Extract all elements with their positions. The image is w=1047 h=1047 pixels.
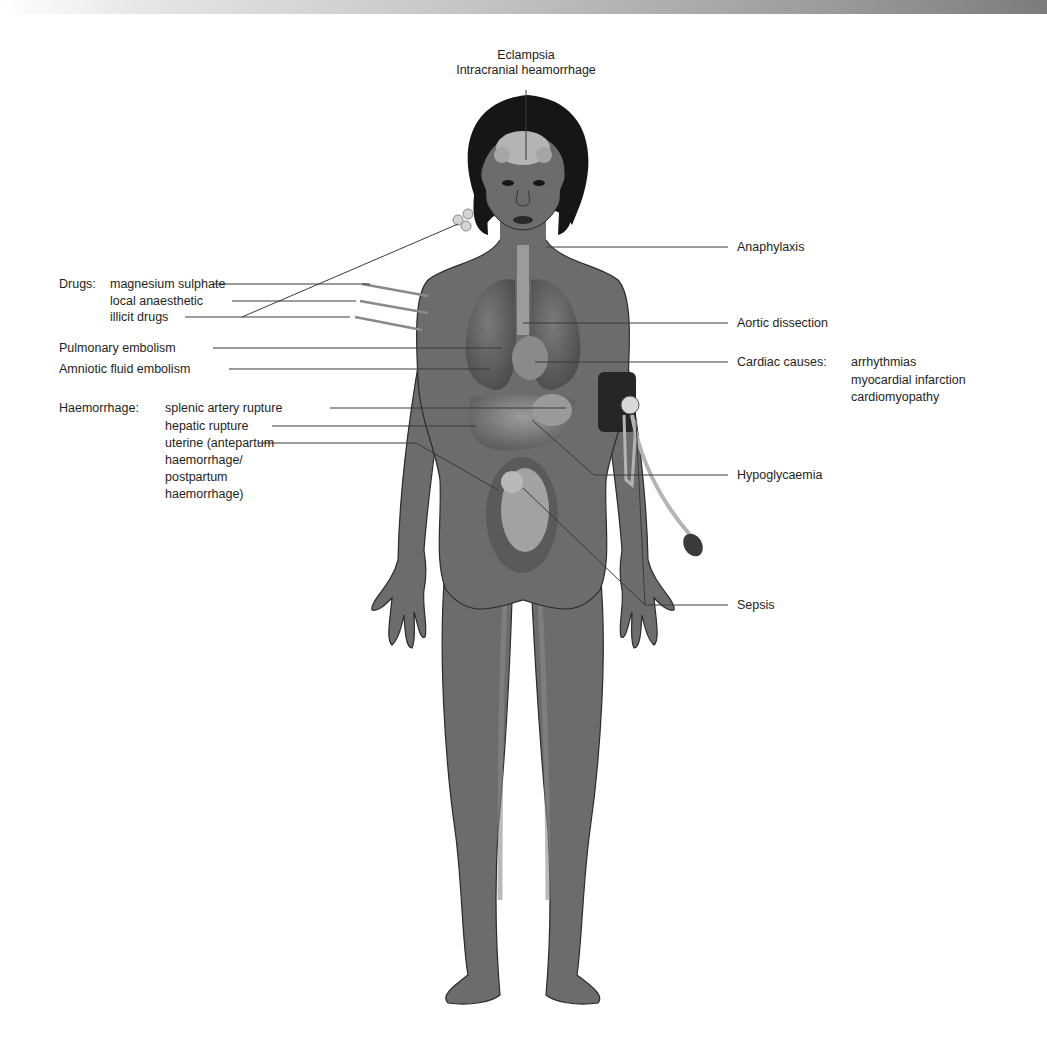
label-cardiomyopathy: cardiomyopathy — [851, 390, 939, 405]
label-amniotic-fluid-embolism: Amniotic fluid embolism — [59, 362, 190, 377]
label-pulmonary-embolism: Pulmonary embolism — [59, 341, 176, 356]
trachea — [517, 245, 529, 335]
label-eclampsia: Eclampsia — [426, 48, 626, 63]
label-cardiac-heading: Cardiac causes: — [737, 355, 827, 370]
label-top: Eclampsia Intracranial heamorrhage — [426, 48, 626, 77]
heart — [512, 336, 548, 380]
label-sepsis: Sepsis — [737, 598, 775, 613]
label-drugs-heading: Drugs: — [59, 277, 96, 292]
legs — [442, 570, 603, 1004]
label-uterine: uterine (antepartum — [165, 436, 274, 451]
label-drug-local-anaesthetic: local anaesthetic — [110, 294, 203, 309]
uterus-with-fetus — [486, 457, 558, 573]
label-aortic-dissection: Aortic dissection — [737, 316, 828, 331]
label-intracranial-haemorrhage: Intracranial heamorrhage — [426, 63, 626, 78]
label-arrhythmias: arrhythmias — [851, 355, 916, 370]
stomach — [532, 394, 572, 426]
label-anaphylaxis: Anaphylaxis — [737, 240, 804, 255]
body-illustration — [0, 0, 1047, 1047]
allergen-pollen — [453, 209, 473, 231]
label-uterine-cont-2: postpartum — [165, 470, 228, 485]
label-splenic-artery-rupture: splenic artery rupture — [165, 401, 282, 416]
label-drug-magnesium: magnesium sulphate — [110, 277, 225, 292]
label-hepatic-rupture: hepatic rupture — [165, 419, 248, 434]
label-haemorrhage-heading: Haemorrhage: — [59, 401, 139, 416]
label-uterine-cont-3: haemorrhage) — [165, 487, 244, 502]
label-drug-illicit: illicit drugs — [110, 310, 168, 325]
label-myocardial-infarction: myocardial infarction — [851, 373, 966, 388]
label-uterine-cont-1: haemorrhage/ — [165, 453, 243, 468]
label-hypoglycaemia: Hypoglycaemia — [737, 468, 822, 483]
